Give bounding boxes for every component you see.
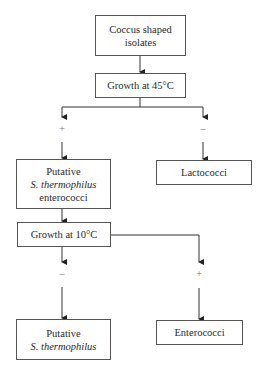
node-text: Putative	[46, 327, 80, 340]
node-text: enterococci	[39, 191, 87, 204]
edge-label-plus: +	[196, 268, 202, 279]
edge-label-minus: –	[201, 123, 206, 134]
node-text-italic: S. thermophilus	[31, 178, 97, 191]
edge-label-plus: +	[59, 123, 65, 134]
node-text: Lactococci	[181, 166, 227, 179]
node-growth-10c: Growth at 10°C	[17, 222, 111, 247]
node-text-italic: S. thermophilus	[31, 340, 97, 353]
node-text: Growth at 45°C	[107, 79, 174, 92]
node-text: Coccus shaped	[109, 23, 172, 36]
node-text: Growth at 10°C	[31, 228, 98, 241]
node-coccus-isolates: Coccus shaped isolates	[95, 15, 186, 56]
node-enterococci: Enterococci	[156, 320, 243, 345]
node-text: Putative	[46, 165, 80, 178]
node-text: isolates	[125, 36, 157, 49]
node-text: Enterococci	[174, 326, 224, 339]
node-growth-45c: Growth at 45°C	[95, 73, 186, 98]
edge-label-minus: –	[60, 268, 65, 279]
node-putative-enterococci: Putative S. thermophilus enterococci	[16, 159, 111, 209]
node-putative-s-thermophilus: Putative S. thermophilus	[16, 319, 111, 360]
edge-growth10-plus-top	[110, 235, 199, 262]
node-lactococci: Lactococci	[156, 160, 252, 185]
